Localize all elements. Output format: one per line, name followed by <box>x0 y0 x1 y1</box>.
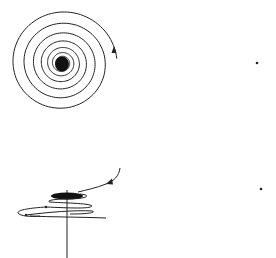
marker-dot-top <box>256 62 259 65</box>
loop-marker <box>45 206 47 208</box>
marker-dot-bottom <box>260 188 263 191</box>
helix-base-line <box>30 216 106 218</box>
diagram-canvas <box>0 0 276 258</box>
spiral-top-view <box>13 12 117 108</box>
loop-marker <box>25 214 27 216</box>
helix-loop <box>18 207 46 216</box>
arrow-down-left-icon <box>106 179 113 185</box>
helix-loop <box>46 202 92 208</box>
spiral-side-view <box>18 168 120 258</box>
arrow-up-icon <box>112 46 117 53</box>
helix-loop <box>26 211 93 215</box>
spiral-dense-core <box>55 57 69 72</box>
incoming-trajectory <box>78 168 120 192</box>
